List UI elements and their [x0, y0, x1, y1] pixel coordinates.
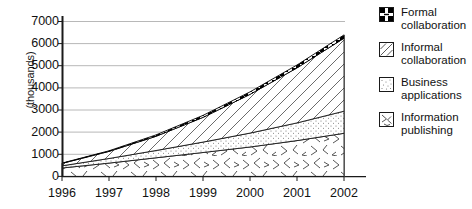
legend-item-business-applications: Business applications [379, 76, 472, 102]
legend-item-informal-collaboration: Informal collaboration [379, 41, 472, 67]
stacked-area-chart-figure: (thousands) 7000 6000 5000 4000 3000 200… [0, 0, 472, 209]
x-tick-2000: 2000 [225, 186, 275, 200]
x-tick-1996: 1996 [37, 186, 87, 200]
legend-label-formal-collaboration: Formal collaboration [401, 6, 466, 32]
diagonal-hatch-swatch-icon [379, 42, 394, 57]
x-tick-1998: 1998 [131, 186, 181, 200]
x-tick-1997: 1997 [84, 186, 134, 200]
dots-swatch-icon [379, 77, 394, 92]
chart-legend: Formal collaboration Informal collaborat… [379, 6, 472, 146]
legend-label-business-applications: Business applications [401, 76, 462, 102]
x-tick-1999: 1999 [178, 186, 228, 200]
checker-swatch-icon [379, 7, 394, 22]
x-tick-2002: 2002 [319, 186, 369, 200]
x-tick-2001: 2001 [272, 186, 322, 200]
legend-item-information-publishing: Information publishing [379, 111, 472, 137]
legend-item-formal-collaboration: Formal collaboration [379, 6, 472, 32]
arrows-swatch-icon [379, 112, 394, 127]
legend-label-informal-collaboration: Informal collaboration [401, 41, 466, 67]
legend-label-information-publishing: Information publishing [401, 111, 459, 137]
